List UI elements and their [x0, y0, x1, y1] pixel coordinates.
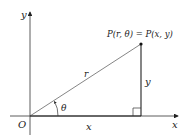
y-axis-label: y — [20, 9, 27, 20]
r-label: r — [84, 69, 89, 79]
point-p — [139, 42, 142, 45]
x-side-label: x — [86, 121, 92, 132]
y-side-label: y — [144, 76, 151, 87]
origin-label: O — [18, 119, 26, 130]
right-angle-marker — [133, 108, 141, 116]
polar-coordinates-diagram: y x O P(r, θ) = P(x, y) r θ x y — [0, 0, 187, 139]
radius-line — [30, 44, 141, 116]
theta-label: θ — [61, 103, 67, 113]
x-axis-label: x — [172, 119, 178, 130]
point-label: P(r, θ) = P(x, y) — [106, 29, 173, 39]
angle-arc — [55, 102, 59, 117]
